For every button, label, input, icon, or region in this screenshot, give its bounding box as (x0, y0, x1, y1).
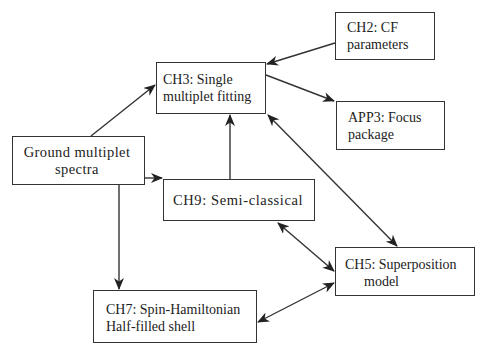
node-label: model (345, 273, 474, 290)
node-label: Half-filled shell (106, 318, 256, 335)
node-ground-multiplet-spectra: Ground multiplet spectra (12, 136, 145, 185)
node-label: Ground multiplet (18, 144, 144, 161)
node-label: APP3: Focus (348, 109, 444, 126)
node-label: multiplet fitting (163, 88, 265, 105)
node-ch2-cf-parameters: CH2: CF parameters (335, 12, 435, 60)
node-label: CH3: Single (163, 71, 265, 88)
node-label: CH5: Superposition (345, 256, 474, 273)
node-label: CH7: Spin-Hamiltonian (106, 301, 256, 318)
node-label: parameters (347, 36, 434, 53)
edge-ch9-ch5 (278, 223, 334, 271)
node-ch5-superposition-model: CH5: Superposition model (335, 247, 475, 296)
diagram-canvas: CH2: CF parameters CH3: Single multiplet… (0, 0, 482, 358)
node-ch9-semi-classical: CH9: Semi-classical (163, 179, 315, 221)
node-label: CH9: Semi-classical (173, 192, 314, 209)
edge-ch7-ch5 (258, 283, 334, 322)
node-label: package (348, 126, 444, 143)
edge-ch2-to-ch3 (267, 43, 335, 64)
node-ch3-single-multiplet-fitting: CH3: Single multiplet fitting (156, 62, 266, 114)
edge-ch3-to-app3 (266, 75, 334, 101)
node-label: spectra (18, 161, 144, 178)
node-ch7-spin-hamiltonian: CH7: Spin-Hamiltonian Half-filled shell (93, 290, 257, 343)
node-label: CH2: CF (347, 19, 434, 36)
node-app3-focus-package: APP3: Focus package (336, 101, 445, 150)
edge-ground-to-ch3 (91, 85, 155, 136)
